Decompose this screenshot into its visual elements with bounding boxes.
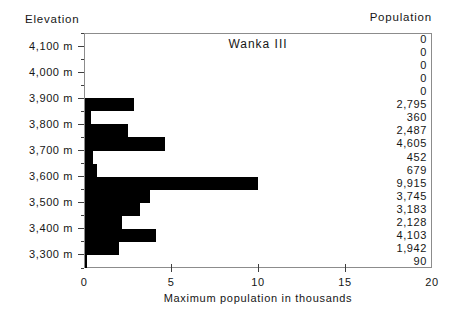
population-tick-mark <box>345 264 346 272</box>
elevation-tick-mark <box>81 33 84 34</box>
population-tick-mark <box>171 264 172 272</box>
population-tick-label: 20 <box>415 277 449 288</box>
elevation-tick-label: 3,300 m <box>0 249 73 260</box>
population-value: 0 <box>300 60 427 71</box>
population-bar <box>85 216 122 229</box>
population-bar <box>85 255 87 268</box>
elevation-tick-mark <box>78 150 84 151</box>
population-bar <box>85 203 140 216</box>
elevation-tick-label: 3,500 m <box>0 197 73 208</box>
population-value: 2,795 <box>300 99 427 110</box>
elevation-population-chart: Elevation Population Wanka III 000002,79… <box>0 0 461 311</box>
elevation-tick-mark <box>78 254 84 255</box>
population-tick-label: 10 <box>241 277 275 288</box>
elevation-tick-label: 3,600 m <box>0 171 73 182</box>
elevation-tick-mark <box>81 137 84 138</box>
population-bar <box>85 242 119 255</box>
elevation-axis-header: Elevation <box>25 13 80 25</box>
population-value: 452 <box>300 152 427 163</box>
population-bar <box>85 137 165 150</box>
elevation-tick-mark <box>81 59 84 60</box>
population-column-header: Population <box>84 11 432 23</box>
population-bar <box>85 98 134 111</box>
elevation-tick-mark <box>78 98 84 99</box>
elevation-tick-mark <box>78 46 84 47</box>
elevation-tick-mark <box>81 111 84 112</box>
elevation-tick-mark <box>81 85 84 86</box>
population-value: 3,183 <box>300 204 427 215</box>
elevation-tick-mark <box>81 241 84 242</box>
elevation-tick-label: 4,100 m <box>0 41 73 52</box>
elevation-tick-mark <box>78 72 84 73</box>
x-axis-title: Maximum population in thousands <box>84 292 432 304</box>
population-bar <box>85 111 91 124</box>
population-value: 360 <box>300 112 427 123</box>
population-bar <box>85 164 97 177</box>
elevation-tick-mark <box>78 202 84 203</box>
population-tick-label: 0 <box>67 277 101 288</box>
population-tick-label: 15 <box>328 277 362 288</box>
population-bar <box>85 229 156 242</box>
population-value: 2,487 <box>300 125 427 136</box>
population-bar <box>85 177 258 190</box>
population-value: 0 <box>300 47 427 58</box>
population-value: 3,745 <box>300 191 427 202</box>
elevation-tick-mark <box>81 268 84 269</box>
population-value: 679 <box>300 165 427 176</box>
population-value: 2,128 <box>300 217 427 228</box>
population-value: 0 <box>300 86 427 97</box>
elevation-tick-mark <box>78 124 84 125</box>
population-value: 4,103 <box>300 230 427 241</box>
elevation-tick-label: 3,800 m <box>0 119 73 130</box>
population-bar <box>85 124 128 137</box>
elevation-tick-mark <box>78 228 84 229</box>
population-bar <box>85 151 93 164</box>
population-tick-label: 5 <box>154 277 188 288</box>
elevation-tick-label: 3,900 m <box>0 93 73 104</box>
elevation-tick-mark <box>81 215 84 216</box>
elevation-tick-label: 3,400 m <box>0 223 73 234</box>
population-value: 90 <box>300 256 427 267</box>
population-value: 0 <box>300 34 427 45</box>
elevation-tick-mark <box>81 163 84 164</box>
elevation-tick-mark <box>81 189 84 190</box>
population-value: 9,915 <box>300 178 427 189</box>
population-value: 4,605 <box>300 138 427 149</box>
elevation-tick-label: 4,000 m <box>0 67 73 78</box>
population-tick-mark <box>258 264 259 272</box>
elevation-tick-mark <box>78 176 84 177</box>
population-value: 0 <box>300 73 427 84</box>
population-bar <box>85 190 150 203</box>
elevation-tick-label: 3,700 m <box>0 145 73 156</box>
population-value: 1,942 <box>300 243 427 254</box>
